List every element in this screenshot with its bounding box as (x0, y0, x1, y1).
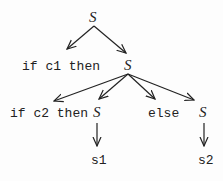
edge-s-inner-to-else (128, 74, 155, 99)
node-s-then: S (93, 104, 101, 120)
node-s1: s1 (91, 153, 107, 168)
edge-root-to-s-inner (94, 26, 126, 53)
node-s-inner: S (124, 57, 132, 73)
node-if-c1-then: if c1 then (22, 59, 100, 74)
tree-svg: S if c1 then S if c2 then S else S s1 s2 (0, 0, 223, 181)
node-s-else: S (199, 104, 207, 120)
edge-root-to-if-c1-then (67, 26, 94, 49)
node-if-c2-then: if c2 then (10, 106, 88, 121)
edge-s-inner-to-s-then (99, 74, 128, 99)
node-s2: s2 (198, 153, 214, 168)
edge-s-inner-to-s-else (128, 74, 194, 100)
edges (54, 26, 204, 146)
node-else: else (148, 106, 179, 121)
parse-tree-diagram: S if c1 then S if c2 then S else S s1 s2 (0, 0, 223, 181)
node-root-s: S (89, 9, 97, 25)
edge-s-inner-to-if-c2-then (54, 74, 128, 101)
